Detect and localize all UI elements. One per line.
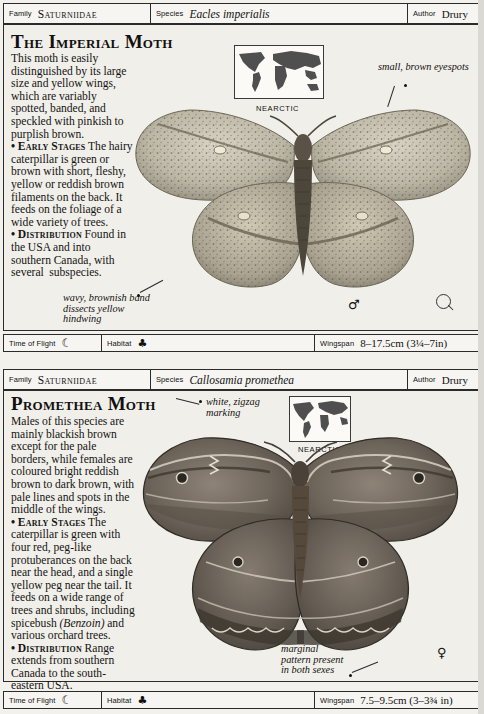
family-caption-1: Family (9, 9, 32, 18)
habitat-caption-1: Habitat (107, 339, 131, 348)
time-of-flight-cell-2: Time of Flight ☾ (4, 692, 102, 708)
wingspan-value-1: 8–17.5cm (3¼–7in) (360, 337, 447, 349)
moon-icon-2: ☾ (62, 693, 73, 707)
family-cell-2: Family Saturniidae (4, 370, 151, 389)
annotation-eyespots-dot (404, 84, 407, 87)
tree-icon-1: ♣ (137, 337, 147, 350)
annotation-wavy-dot (137, 294, 140, 297)
footer-bar-1: Time of Flight ☾ Habitat ♣ Wingspan 8–17… (3, 334, 481, 352)
male-symbol-1: ♂ (348, 297, 360, 312)
moth-illustration-imperial (128, 88, 478, 318)
wingspan-cell-1: Wingspan 8–17.5cm (3¼–7in) (315, 335, 480, 351)
tree-icon-2: ♣ (137, 694, 147, 707)
author-cell-2: Author Drury (408, 370, 480, 389)
time-of-flight-caption-2: Time of Flight (9, 696, 56, 705)
habitat-caption-2: Habitat (107, 696, 131, 705)
wingspan-caption-1: Wingspan (320, 339, 354, 348)
moon-icon-1: ☾ (62, 336, 73, 350)
taxonomy-header-bar-1: Family Saturniidae Species Eacles imperi… (3, 3, 481, 24)
wingspan-caption-2: Wingspan (320, 696, 354, 705)
species-value-2: Callosamia promethea (189, 374, 294, 386)
author-caption-1: Author (413, 9, 436, 18)
field-guide-page: Family Saturniidae Species Eacles imperi… (0, 0, 484, 714)
taxonomy-header-bar-2: Family Saturniidae Species Callosamia pr… (3, 369, 481, 390)
annotation-marginal-pattern: marginal pattern present in both sexes (281, 644, 347, 676)
species-cell-1: Species Eacles imperialis (151, 4, 408, 23)
annotation-zigzag: white, zigzag marking (206, 397, 266, 418)
annotation-marginal-dot (349, 674, 352, 677)
species-caption-1: Species (156, 9, 183, 18)
page-right-edge (478, 0, 484, 714)
author-cell-1: Author Drury (408, 4, 480, 23)
habitat-cell-2: Habitat ♣ (102, 692, 315, 708)
page-title-imperial: The Imperial Moth (11, 31, 173, 53)
footer-bar-2: Time of Flight ☾ Habitat ♣ Wingspan 7.5–… (3, 691, 481, 709)
annotation-wavy-band: wavy, brownish band dissects yellow hind… (63, 293, 155, 325)
family-value-2: Saturniidae (38, 374, 97, 386)
family-caption-2: Family (9, 375, 32, 384)
annotation-zigzag-dot (199, 400, 202, 403)
description-promethea: Males of this species are mainly blackis… (11, 416, 135, 693)
time-of-flight-caption-1: Time of Flight (9, 339, 56, 348)
description-imperial: This moth is easily distinguished by its… (11, 53, 133, 280)
wingspan-cell-2: Wingspan 7.5–9.5cm (3–3¾ in) (315, 692, 480, 708)
time-of-flight-cell-1: Time of Flight ☾ (4, 335, 102, 351)
species-caption-2: Species (156, 375, 183, 384)
moth-illustration-promethea (128, 412, 473, 677)
author-value-2: Drury (442, 374, 468, 386)
annotation-eyespots: small, brown eyespots (378, 62, 470, 73)
species-cell-2: Species Callosamia promethea (151, 370, 408, 389)
author-caption-2: Author (413, 375, 436, 384)
female-symbol-2: ♀ (437, 645, 447, 660)
wingspan-value-2: 7.5–9.5cm (3–3¾ in) (360, 694, 453, 706)
family-value-1: Saturniidae (38, 8, 97, 20)
author-value-1: Drury (442, 8, 468, 20)
habitat-cell-1: Habitat ♣ (102, 335, 315, 351)
magnifier-icon-1 (436, 294, 451, 309)
family-cell-1: Family Saturniidae (4, 4, 151, 23)
species-value-1: Eacles imperialis (189, 8, 269, 20)
